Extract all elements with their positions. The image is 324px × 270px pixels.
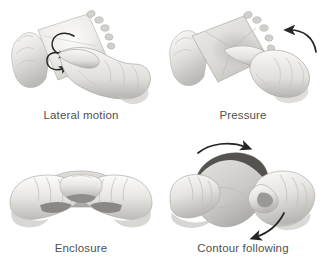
panel-pressure: Pressure xyxy=(162,0,324,135)
caption-lateral-motion: Lateral motion xyxy=(0,108,162,122)
caption-contour-following: Contour following xyxy=(162,241,324,255)
illustration-contour-following xyxy=(162,135,324,245)
exploratory-procedures-figure: Lateral motion xyxy=(0,0,324,270)
panel-enclosure: Enclosure xyxy=(0,135,162,270)
panel-contour-following: Contour following xyxy=(162,135,324,270)
exploring-hand-shape xyxy=(58,48,150,105)
caption-pressure: Pressure xyxy=(162,108,324,122)
contour-arrow-top xyxy=(198,144,246,153)
illustration-pressure xyxy=(162,0,324,110)
illustration-enclosure xyxy=(0,135,162,245)
caption-enclosure: Enclosure xyxy=(0,241,162,255)
panel-lateral-motion: Lateral motion xyxy=(0,0,162,135)
curved-press-arrow xyxy=(290,30,316,52)
pressing-hand-shape xyxy=(224,46,310,103)
illustration-lateral-motion xyxy=(0,0,162,110)
